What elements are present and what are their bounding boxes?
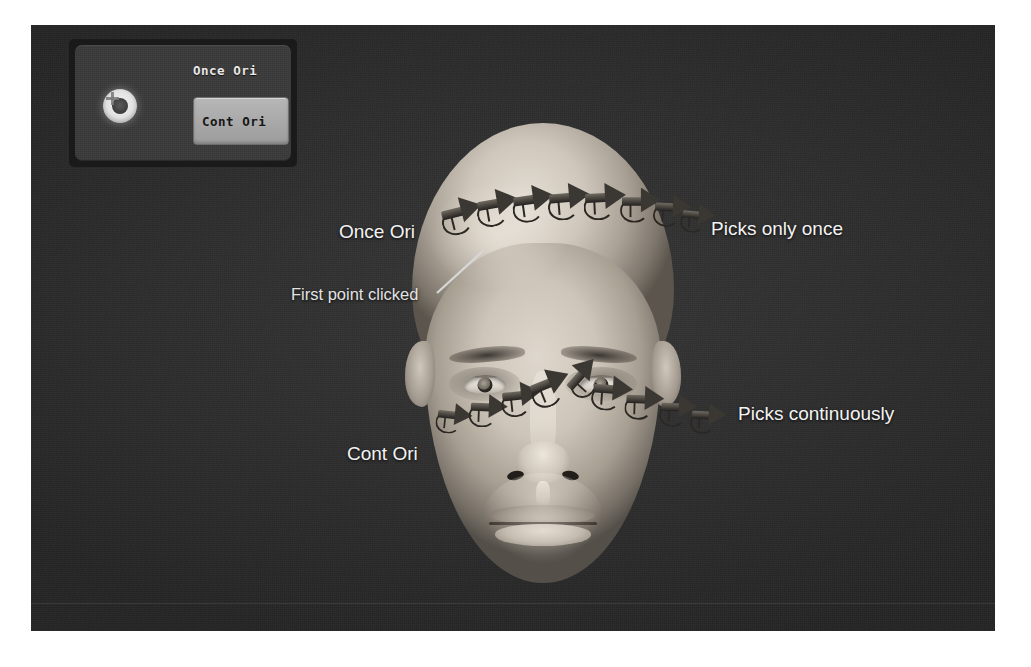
iris-right bbox=[594, 377, 609, 392]
annotation-first-point-clicked: First point clicked bbox=[291, 285, 418, 304]
eye-left bbox=[464, 375, 506, 394]
tool-panel-inner: Once Ori Cont Ori bbox=[75, 45, 291, 161]
floor-seam-line bbox=[31, 603, 995, 604]
eyelid-left bbox=[464, 375, 506, 378]
gizmo-ring bbox=[679, 211, 705, 234]
chin-highlight bbox=[483, 473, 603, 563]
gizmo-shaft bbox=[655, 202, 682, 211]
forehead-highlight bbox=[429, 181, 569, 291]
gizmo-tick bbox=[698, 418, 700, 429]
orientation-gizmo-cheek-8[interactable] bbox=[688, 400, 728, 427]
gizmo-arrow-head-icon bbox=[708, 403, 727, 426]
gizmo-tick bbox=[688, 217, 691, 228]
ear-right bbox=[651, 341, 681, 407]
annotation-picks-only-once: Picks only once bbox=[711, 218, 843, 240]
gizmo-ring bbox=[659, 404, 686, 428]
gizmo-tick bbox=[668, 410, 670, 421]
gizmo-ring bbox=[689, 411, 715, 434]
3d-viewport[interactable]: Once Ori Picks only once Cont Ori Picks … bbox=[31, 25, 995, 631]
dial-knob-icon[interactable] bbox=[103, 89, 137, 123]
gizmo-arrow-head-icon bbox=[678, 395, 697, 419]
iris-left bbox=[478, 377, 493, 392]
eye-right bbox=[580, 375, 622, 394]
dial-knob-core bbox=[112, 98, 128, 114]
gizmo-shaft bbox=[682, 210, 707, 220]
annotation-picks-continuously: Picks continuously bbox=[738, 403, 894, 425]
ear-left bbox=[405, 341, 435, 407]
cont-ori-button[interactable]: Cont Ori bbox=[193, 97, 289, 145]
once-ori-label[interactable]: Once Ori bbox=[193, 63, 257, 78]
application-root: Once Ori Picks only once Cont Ori Picks … bbox=[0, 0, 1031, 667]
eyelid-right bbox=[580, 375, 622, 378]
annotation-cont-ori: Cont Ori bbox=[347, 443, 418, 465]
gizmo-arrow-head-icon bbox=[672, 195, 692, 219]
annotation-once-ori: Once Ori bbox=[339, 221, 415, 243]
gizmo-shaft bbox=[692, 411, 718, 420]
human-head-3d-model[interactable] bbox=[369, 123, 717, 593]
orientation-tool-panel[interactable]: Once Ori Cont Ori bbox=[69, 39, 297, 167]
